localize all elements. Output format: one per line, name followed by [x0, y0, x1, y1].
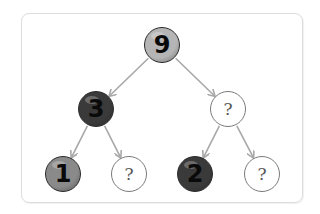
tree-node-left-left: 1 [45, 156, 81, 192]
unknown-value-label: ? [257, 164, 266, 184]
tree-node-right-left: 2 [177, 156, 213, 192]
tree-node-left-right: ? [111, 156, 147, 192]
edge-root-to-left [110, 58, 149, 96]
tree-node-right: ? [210, 91, 246, 127]
edge-left-to-left-left [72, 126, 88, 157]
tree-node-left: 3 [78, 91, 114, 127]
edge-root-to-right [176, 58, 215, 96]
tree-node-root: 9 [144, 27, 180, 63]
edge-left-to-left-right [105, 126, 121, 157]
tree-node-right-right: ? [244, 156, 280, 192]
node-value-label: 2 [187, 160, 204, 188]
edge-right-to-right-left [204, 126, 220, 157]
unknown-value-label: ? [223, 99, 232, 119]
node-value-label: 1 [55, 160, 72, 188]
edge-right-to-right-right [237, 126, 253, 157]
node-value-label: 9 [154, 31, 171, 59]
node-value-label: 3 [88, 95, 105, 123]
unknown-value-label: ? [124, 164, 133, 184]
